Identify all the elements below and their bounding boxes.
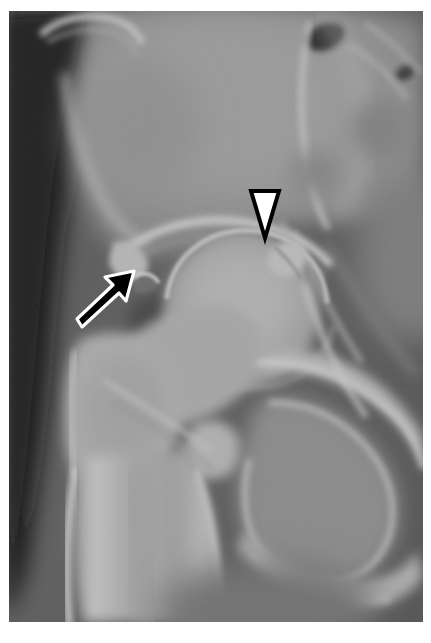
radiograph-figure	[0, 0, 431, 643]
frame-border-left	[0, 0, 9, 643]
frame-border-top	[0, 0, 431, 11]
radiograph-canvas	[9, 11, 423, 622]
film-grain-overlay	[9, 11, 423, 622]
frame-border-right	[423, 0, 431, 643]
radiograph-image	[9, 11, 423, 622]
frame-border-bottom	[0, 622, 431, 643]
